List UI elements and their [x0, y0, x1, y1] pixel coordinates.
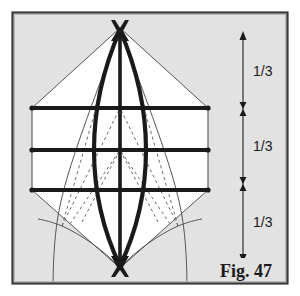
node-dot [205, 187, 210, 192]
node-dot [29, 147, 34, 152]
scale-label-middle: 1/3 [253, 138, 273, 154]
figure-canvas: 1/3 1/3 1/3 Fig. 47 [0, 0, 300, 296]
node-dot [92, 148, 97, 153]
scale-label-lower: 1/3 [253, 214, 273, 230]
node-dot [94, 188, 99, 193]
node-dot [29, 105, 34, 110]
figure-caption: Fig. 47 [220, 261, 272, 281]
figure-panel: 1/3 1/3 1/3 Fig. 47 [0, 0, 300, 296]
node-dot [29, 187, 34, 192]
node-dot [144, 148, 149, 153]
node-dot [142, 106, 147, 111]
node-dot [142, 188, 147, 193]
node-dot [94, 106, 99, 111]
scale-label-upper: 1/3 [253, 63, 273, 79]
node-dot [205, 105, 210, 110]
node-dot [205, 147, 210, 152]
